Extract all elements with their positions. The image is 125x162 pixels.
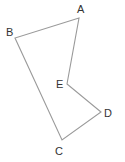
vertex-label-e: E (56, 78, 63, 90)
polygon-diagram: A B C D E (0, 0, 125, 162)
diagram-canvas: A B C D E (0, 0, 125, 162)
vertex-label-a: A (77, 3, 85, 15)
vertex-label-b: B (6, 26, 13, 38)
vertex-label-c: C (55, 145, 63, 157)
vertex-label-d: D (104, 107, 112, 119)
